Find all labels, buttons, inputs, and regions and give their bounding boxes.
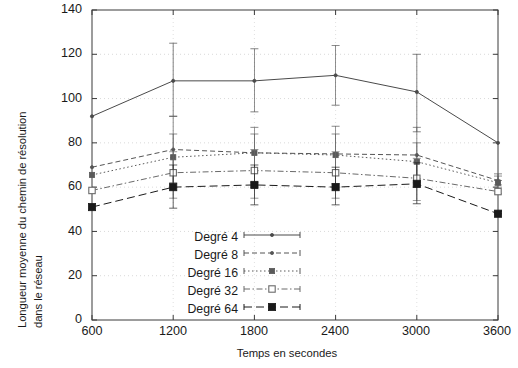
data-point-3 bbox=[334, 74, 337, 77]
axes-group bbox=[92, 10, 498, 320]
series-line bbox=[92, 75, 498, 143]
chart-figure: Longueur moyenne du chemin de résolution… bbox=[0, 0, 518, 368]
data-point-5 bbox=[496, 141, 499, 144]
series-degr-4 bbox=[90, 43, 499, 144]
gridlines-group bbox=[92, 10, 498, 320]
series-degr-8 bbox=[90, 116, 502, 184]
data-point-5 bbox=[495, 188, 501, 194]
plot-canvas bbox=[0, 0, 518, 368]
data-series-group bbox=[88, 43, 502, 217]
series-line bbox=[92, 153, 498, 183]
data-point-4 bbox=[413, 180, 420, 187]
data-point-4 bbox=[415, 90, 418, 93]
legend-marker-2 bbox=[269, 268, 274, 273]
data-point-1 bbox=[172, 79, 175, 82]
series-line bbox=[92, 184, 498, 214]
series-degr-64 bbox=[88, 163, 502, 218]
legend-marker-0 bbox=[270, 233, 273, 236]
data-point-1 bbox=[170, 184, 177, 191]
data-point-5 bbox=[495, 180, 500, 185]
legend-markers-group bbox=[244, 232, 300, 311]
data-point-0 bbox=[88, 203, 95, 210]
series-degr-16 bbox=[89, 134, 502, 187]
axis-ticks-group bbox=[92, 10, 498, 320]
data-point-0 bbox=[90, 166, 93, 169]
data-point-2 bbox=[253, 79, 256, 82]
data-point-0 bbox=[89, 187, 95, 193]
data-point-3 bbox=[332, 184, 339, 191]
data-point-0 bbox=[90, 115, 93, 118]
plot-frame bbox=[92, 10, 498, 320]
legend-marker-3 bbox=[269, 286, 275, 292]
data-point-2 bbox=[251, 181, 258, 188]
legend-marker-4 bbox=[268, 303, 275, 310]
data-point-0 bbox=[89, 172, 94, 177]
series-line bbox=[92, 171, 498, 192]
data-point-5 bbox=[494, 210, 501, 217]
legend-marker-1 bbox=[270, 251, 273, 254]
